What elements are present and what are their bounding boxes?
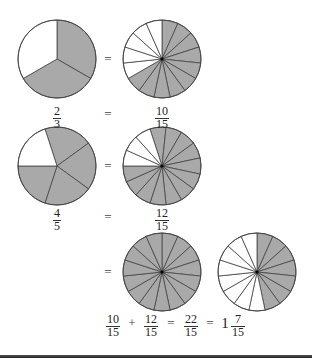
fraction-pie-diagram xyxy=(0,0,312,359)
denominator: 15 xyxy=(184,327,198,338)
numerator: 12 xyxy=(144,314,158,325)
numerator: 10 xyxy=(106,314,120,325)
numerator: 4 xyxy=(53,208,61,219)
equals-sign-row2: = xyxy=(104,209,111,225)
pie-center-dot xyxy=(160,57,163,60)
denominator: 15 xyxy=(155,221,169,232)
denominator: 5 xyxy=(53,221,61,232)
denominator: 3 xyxy=(53,119,61,130)
numerator: 12 xyxy=(155,208,169,219)
mixed-number-whole: 1 xyxy=(221,315,229,332)
equals-sign-sum2: = xyxy=(206,315,213,331)
numerator: 10 xyxy=(155,106,169,117)
plus-sign: + xyxy=(128,315,135,331)
sum-term1-fraction: 10 15 xyxy=(106,314,120,338)
denominator: 15 xyxy=(155,119,169,130)
denominator: 15 xyxy=(231,327,245,338)
pie-four-fifths xyxy=(18,127,96,205)
pie-center-dot xyxy=(160,270,163,273)
pie-twelve-fifteenths xyxy=(123,127,201,205)
fraction-twelve-fifteenths: 12 15 xyxy=(155,208,169,232)
bottom-rule xyxy=(0,355,312,358)
sum-term2-fraction: 12 15 xyxy=(144,314,158,338)
equals-sign-sum1: = xyxy=(167,315,174,331)
pie-seven-fifteenths xyxy=(218,233,296,311)
sum-result-fraction: 22 15 xyxy=(184,314,198,338)
pie-center-dot xyxy=(160,164,163,167)
equals-sign-row1: = xyxy=(104,106,111,122)
equals-sign-row1-circles: = xyxy=(104,51,111,67)
numerator: 22 xyxy=(184,314,198,325)
pie-fifteen-fifteenths xyxy=(123,233,201,311)
pie-center-dot xyxy=(255,270,258,273)
mixed-number-fraction: 7 15 xyxy=(231,314,245,338)
equals-sign-row2-circles: = xyxy=(104,158,111,174)
denominator: 15 xyxy=(144,327,158,338)
denominator: 15 xyxy=(106,327,120,338)
numerator: 2 xyxy=(53,106,61,117)
numerator: 7 xyxy=(234,314,242,325)
fraction-two-thirds: 2 3 xyxy=(53,106,61,130)
pie-ten-fifteenths xyxy=(123,20,201,98)
pie-two-thirds xyxy=(18,20,96,98)
equals-sign-row3-circles: = xyxy=(104,264,111,280)
fraction-ten-fifteenths: 10 15 xyxy=(155,106,169,130)
fraction-four-fifths: 4 5 xyxy=(53,208,61,232)
